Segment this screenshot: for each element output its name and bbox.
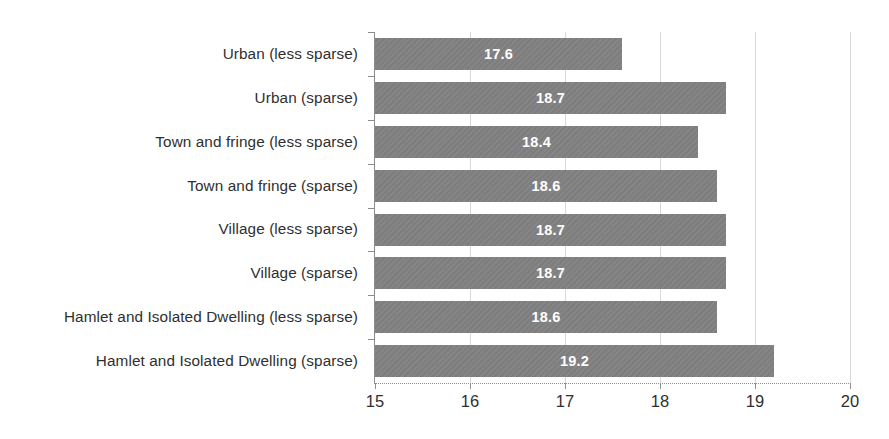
chart-row: Hamlet and Isolated Dwelling (sparse)19.… bbox=[0, 339, 889, 383]
category-label: Hamlet and Isolated Dwelling (sparse) bbox=[96, 339, 358, 383]
x-axis-tick bbox=[850, 383, 851, 389]
y-axis-tick bbox=[368, 120, 374, 121]
chart-row: Village (sparse)18.7 bbox=[0, 251, 889, 295]
category-label: Town and fringe (less sparse) bbox=[155, 120, 358, 164]
chart-row: Town and fringe (less sparse)18.4 bbox=[0, 120, 889, 164]
bar-value-label: 18.7 bbox=[375, 82, 726, 114]
x-axis-line bbox=[374, 383, 851, 385]
x-axis-tick-label: 16 bbox=[440, 392, 500, 411]
y-axis-tick bbox=[368, 164, 374, 165]
bar-value-label: 18.6 bbox=[375, 170, 717, 202]
category-label: Village (less sparse) bbox=[218, 208, 358, 252]
y-axis-tick bbox=[368, 76, 374, 77]
category-label: Urban (sparse) bbox=[255, 76, 358, 120]
x-axis-tick-label: 20 bbox=[820, 392, 880, 411]
chart-row: Hamlet and Isolated Dwelling (less spars… bbox=[0, 295, 889, 339]
y-axis-tick bbox=[368, 32, 374, 33]
bar-value-label: 18.6 bbox=[375, 301, 717, 333]
category-label: Urban (less sparse) bbox=[223, 32, 358, 76]
y-axis-tick bbox=[368, 251, 374, 252]
chart-row: Urban (sparse)18.7 bbox=[0, 76, 889, 120]
y-axis-tick bbox=[368, 295, 374, 296]
bar-value-label: 18.7 bbox=[375, 257, 726, 289]
chart-row: Town and fringe (sparse)18.6 bbox=[0, 164, 889, 208]
category-label: Town and fringe (sparse) bbox=[187, 164, 358, 208]
y-axis-tick bbox=[368, 339, 374, 340]
category-label: Village (sparse) bbox=[250, 251, 358, 295]
bar-value-label: 18.4 bbox=[375, 126, 698, 158]
chart-row: Urban (less sparse)17.6 bbox=[0, 32, 889, 76]
x-axis-tick bbox=[470, 383, 471, 389]
bar-value-label: 17.6 bbox=[375, 38, 622, 70]
x-axis-tick bbox=[660, 383, 661, 389]
x-axis-tick-label: 19 bbox=[725, 392, 785, 411]
x-axis-tick bbox=[565, 383, 566, 389]
x-axis-tick-label: 17 bbox=[535, 392, 595, 411]
bar-chart: Urban (less sparse)17.6Urban (sparse)18.… bbox=[0, 0, 889, 439]
category-label: Hamlet and Isolated Dwelling (less spars… bbox=[64, 295, 358, 339]
y-axis-tick bbox=[368, 208, 374, 209]
chart-row: Village (less sparse)18.7 bbox=[0, 208, 889, 252]
x-axis-tick-label: 18 bbox=[630, 392, 690, 411]
x-axis-tick bbox=[755, 383, 756, 389]
x-axis-tick bbox=[375, 383, 376, 389]
x-axis-tick-label: 15 bbox=[345, 392, 405, 411]
bar-value-label: 19.2 bbox=[375, 345, 774, 377]
bar-value-label: 18.7 bbox=[375, 214, 726, 246]
